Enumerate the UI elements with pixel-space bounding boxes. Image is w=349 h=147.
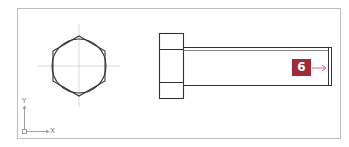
callout-arrow (312, 65, 326, 71)
ucs-icon (23, 106, 50, 134)
ucs-x-label: X (50, 127, 55, 135)
hexagon-view (38, 24, 120, 107)
bolt-head (160, 34, 184, 99)
callout-badge: 6 (292, 59, 311, 76)
ucs-y-label: Y (22, 97, 26, 105)
